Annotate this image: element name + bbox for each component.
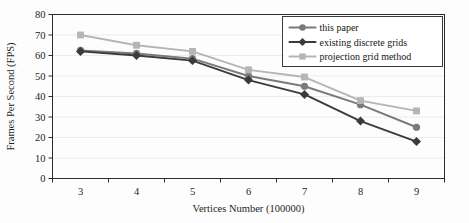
y-tick-label: 50 (35, 71, 46, 82)
data-point-marker (357, 97, 364, 104)
legend-label: projection grid method (320, 51, 412, 62)
x-tick-label: 8 (358, 186, 363, 197)
data-point-marker (413, 124, 420, 131)
y-tick-label: 40 (35, 91, 46, 102)
x-tick-label: 7 (302, 186, 307, 197)
x-tick-label: 6 (246, 186, 251, 197)
data-point-marker (301, 74, 308, 81)
y-tick-label: 80 (35, 9, 46, 20)
x-tick-label: 9 (414, 186, 419, 197)
fps-vs-vertices-line-chart: 01020304050607080 3456789 this paperexis… (0, 0, 469, 223)
data-point-marker (300, 90, 309, 99)
data-point-marker (301, 83, 308, 90)
x-tick-label: 5 (190, 186, 195, 197)
data-point-marker (356, 117, 365, 126)
y-tick-label: 0 (40, 173, 45, 184)
x-axis-ticks: 3456789 (53, 179, 445, 197)
data-point-marker (77, 32, 84, 39)
data-point-marker (245, 66, 252, 73)
legend-label: this paper (320, 22, 360, 33)
y-tick-label: 20 (35, 132, 46, 143)
x-tick-label: 3 (78, 186, 83, 197)
data-point-marker (133, 42, 140, 49)
data-point-marker (412, 137, 421, 146)
y-axis-title: Frames Per Second (FPS) (5, 42, 17, 151)
y-tick-label: 60 (35, 50, 46, 61)
legend: this paperexisting discrete gridsproject… (283, 17, 443, 67)
data-point-marker (299, 53, 305, 59)
data-point-marker (189, 48, 196, 55)
chart-figure: 01020304050607080 3456789 this paperexis… (0, 0, 469, 223)
x-tick-label: 4 (134, 186, 140, 197)
data-point-marker (76, 47, 85, 56)
x-axis-title: Vertices Number (100000) (193, 203, 305, 215)
y-tick-label: 10 (35, 153, 46, 164)
data-point-marker (299, 24, 306, 31)
data-point-marker (413, 107, 420, 114)
y-axis-ticks: 01020304050607080 (35, 9, 53, 184)
y-tick-label: 30 (35, 112, 46, 123)
legend-label: existing discrete grids (320, 37, 408, 48)
y-tick-label: 70 (35, 30, 46, 41)
